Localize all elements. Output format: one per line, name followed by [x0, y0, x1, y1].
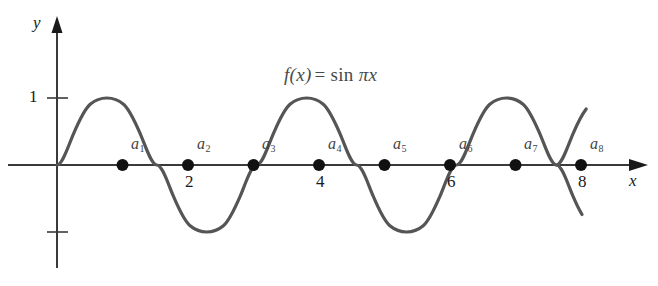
y-axis-arrowhead: [52, 16, 63, 33]
x-axis-label: x: [629, 172, 637, 189]
point-label-a2: a2: [197, 136, 210, 152]
formula-pi: π: [359, 64, 369, 85]
formula-equals: =: [312, 64, 329, 85]
zero-dot: [379, 159, 391, 171]
point-label-subscript: 3: [271, 143, 276, 154]
x-tick-label-8: 8: [578, 173, 587, 190]
point-label-a7: a7: [524, 136, 537, 152]
zero-dot: [182, 159, 194, 171]
sine-curve-tail: [556, 109, 586, 165]
point-label-base: a: [328, 135, 336, 152]
point-label-base: a: [262, 135, 270, 152]
point-label-base: a: [131, 135, 139, 152]
point-label-a5: a5: [393, 136, 406, 152]
x-tick-label-6: 6: [447, 173, 456, 190]
zero-dot: [117, 159, 129, 171]
point-label-a4: a4: [328, 136, 341, 152]
zero-dot: [444, 159, 456, 171]
function-formula: f(x)=sin πx: [284, 65, 377, 84]
point-label-subscript: 4: [337, 143, 342, 154]
point-label-base: a: [590, 135, 598, 152]
y-tick-label-1: 1: [29, 88, 38, 105]
point-label-subscript: 1: [140, 143, 145, 154]
point-label-base: a: [393, 135, 401, 152]
formula-variable: x: [369, 64, 378, 85]
point-label-subscript: 7: [533, 143, 538, 154]
formula-lhs: f(x): [284, 64, 312, 85]
sine-function-figure: y x 1 2 4 6 8 f(x)=sin πx a1 a2 a3 a4 a5…: [0, 0, 658, 286]
point-label-base: a: [459, 135, 467, 152]
point-label-a3: a3: [262, 136, 275, 152]
x-axis-arrowhead: [629, 159, 648, 171]
x-tick-label-2: 2: [185, 173, 194, 190]
zero-dot: [313, 159, 325, 171]
point-label-base: a: [524, 135, 532, 152]
zero-dot: [575, 159, 587, 171]
point-label-a1: a1: [131, 136, 144, 152]
point-label-subscript: 6: [468, 143, 473, 154]
point-label-subscript: 5: [402, 143, 407, 154]
zero-dot: [248, 159, 260, 171]
point-label-subscript: 8: [599, 143, 604, 154]
point-label-a8: a8: [590, 136, 603, 152]
point-label-base: a: [197, 135, 205, 152]
formula-sin: sin: [329, 64, 354, 85]
zero-dot: [510, 159, 522, 171]
x-tick-label-4: 4: [316, 173, 325, 190]
point-label-a6: a6: [459, 136, 472, 152]
y-axis-label: y: [33, 14, 41, 31]
point-label-subscript: 2: [206, 143, 211, 154]
